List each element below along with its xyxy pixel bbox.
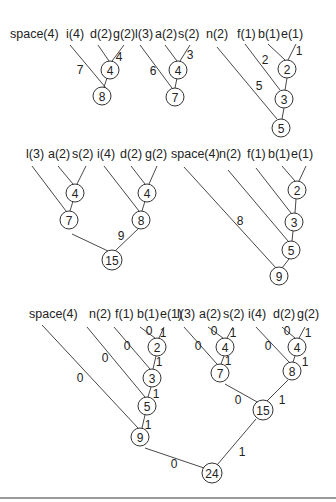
tree-node: 7 [60, 211, 78, 229]
edge-label: 5 [256, 79, 263, 93]
leaf-symbol-label: f(1) [237, 27, 256, 41]
node-weight: 4 [294, 341, 301, 355]
tree-edge [77, 166, 86, 184]
tree-edge [149, 166, 157, 184]
tree-edge [282, 108, 284, 119]
tree-node: 8 [132, 211, 150, 229]
leaf-symbol-label: space(4) [29, 307, 78, 321]
edge-label: 0 [265, 339, 272, 353]
tree-node: 15 [102, 250, 122, 270]
bottom-divider [0, 497, 336, 499]
node-weight: 4 [222, 341, 229, 355]
leaf-symbol-label: l(3) [177, 307, 195, 321]
node-weight: 3 [281, 93, 288, 107]
tree-edge [256, 168, 291, 213]
tree-edge [285, 78, 287, 90]
tree-edge [114, 327, 150, 369]
node-weight: 4 [72, 187, 79, 201]
edge-label: 8 [237, 214, 244, 228]
tree-edge [104, 166, 139, 211]
panel-step4: l(3)a(2)s(2)i(4)d(2)g(2)4748159 [26, 147, 167, 270]
leaf-symbol-label: l(3) [135, 27, 153, 41]
leaf-symbol-label: b(1) [137, 307, 159, 321]
leaf-symbol-label: g(2) [113, 27, 135, 41]
tree-node: 3 [285, 213, 303, 231]
leaf-symbol-label: a(2) [155, 27, 177, 41]
edge-label: 1 [160, 326, 167, 340]
edge-label: 0 [102, 351, 109, 365]
tree-node: 4 [138, 184, 156, 202]
leaf-symbol-label: n(2) [206, 27, 228, 41]
tree-edge [58, 166, 73, 184]
tree-edge [295, 199, 296, 213]
tree-node: 2 [278, 60, 296, 78]
tree-edge [72, 234, 108, 251]
edge-label: 2 [262, 53, 269, 67]
tree-edge [87, 327, 145, 397]
leaf-symbol-label: s(2) [178, 27, 200, 41]
node-weight: 5 [288, 244, 295, 258]
tree-edge [268, 44, 285, 60]
tree-edge [217, 419, 256, 465]
leaf-symbol-label: n(2) [219, 147, 241, 161]
node-weight: 2 [284, 63, 291, 77]
edge-label: 7 [77, 63, 84, 77]
edge-label: 0 [146, 324, 153, 338]
node-weight: 5 [144, 400, 151, 414]
leaf-symbol-label: a(2) [199, 307, 221, 321]
leaf-symbol-label: b(1) [258, 27, 280, 41]
tree-edge [165, 45, 177, 61]
tree-node: 3 [275, 90, 293, 108]
node-weight: 3 [149, 372, 156, 386]
node-weight: 3 [291, 216, 298, 230]
tree-edge [32, 166, 66, 211]
tree-edge [70, 45, 106, 88]
leaf-symbol-label: d(2) [90, 27, 112, 41]
node-weight: 7 [172, 91, 179, 105]
leaf-symbol-label: g(2) [297, 307, 319, 321]
edge-label: 0 [284, 324, 291, 338]
edge-label: 1 [302, 355, 309, 369]
edge-label: 1 [305, 326, 312, 340]
leaf-symbol-label: e(1) [291, 147, 313, 161]
leaf-symbol-label: s(2) [72, 147, 94, 161]
node-weight: 2 [154, 341, 161, 355]
tree-node: 24 [202, 463, 222, 483]
tree-node: 2 [148, 338, 166, 356]
panel-step3: n(2)f(1)b(1)e(1)235125 [206, 27, 303, 137]
leaf-symbol-label: e(1) [281, 27, 303, 41]
tree-edge [142, 201, 145, 211]
tree-edge [104, 78, 107, 87]
tree-edge [70, 201, 73, 211]
tree-edge [282, 259, 289, 268]
edge-label: 1 [296, 44, 303, 58]
tree-edge [175, 78, 177, 88]
leaf-symbol-label: space(4) [171, 147, 220, 161]
edge-label: 0 [171, 457, 178, 471]
node-weight: 4 [144, 187, 151, 201]
tree-node: 2 [288, 181, 306, 199]
leaf-symbol-label: b(1) [268, 147, 290, 161]
tree-edge [98, 45, 109, 61]
panel-step2: l(3)a(2)s(2)4736 [135, 27, 200, 106]
edge-label: 1 [145, 418, 152, 432]
tree-node: 8 [93, 87, 111, 105]
node-weight: 7 [217, 367, 224, 381]
node-weight: 7 [66, 214, 73, 228]
tree-node: 3 [143, 369, 161, 387]
node-weight: 5 [278, 122, 285, 136]
edge-label: 1 [230, 326, 237, 340]
edge-label: 3 [187, 48, 194, 62]
edge-label: 4 [116, 50, 123, 64]
tree-node: 4 [169, 61, 187, 79]
edge-label: 6 [150, 64, 157, 78]
tree-node: 4 [66, 184, 84, 202]
leaf-symbol-label: i(4) [97, 147, 115, 161]
tree-edge [184, 167, 276, 268]
tree-edge [228, 170, 288, 241]
node-weight: 4 [107, 64, 114, 78]
leaf-symbol-label: space(4) [10, 27, 59, 41]
leaf-symbol-label: f(1) [115, 307, 134, 321]
node-weight: 15 [256, 404, 270, 418]
edge-label: 0 [77, 371, 84, 385]
